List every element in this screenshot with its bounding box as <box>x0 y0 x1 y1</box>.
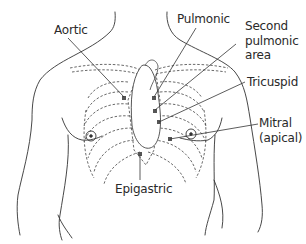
aortic-leader <box>68 38 124 97</box>
right-arm-inner <box>205 135 215 235</box>
mitral-leader <box>170 124 258 139</box>
left-arm-inner <box>59 135 68 240</box>
right-torso <box>214 180 223 228</box>
right-pectoral <box>180 118 222 141</box>
label-second-pulmonic-line3: area <box>245 49 271 62</box>
label-pulmonic: Pulmonic <box>177 13 230 26</box>
label-mitral-line1: Mitral <box>259 117 292 130</box>
right-nipple <box>186 129 196 139</box>
label-tricuspid: Tricuspid <box>247 76 298 89</box>
tricuspid-leader <box>159 82 245 122</box>
label-epigastric: Epigastric <box>115 183 172 196</box>
second-pulmonic-leader <box>155 44 236 110</box>
label-second-pulmonic-line1: Second <box>245 20 288 33</box>
label-mitral-line2: (apical) <box>259 132 302 145</box>
label-aortic: Aortic <box>54 24 88 37</box>
label-second-pulmonic-line2: pulmonic <box>245 35 299 48</box>
heart <box>131 65 160 148</box>
neck-left-outline <box>17 12 115 235</box>
